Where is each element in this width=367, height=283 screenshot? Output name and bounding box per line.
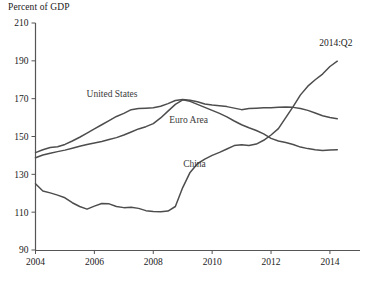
x-tick-label: 2008	[144, 257, 163, 267]
y-tick-label: 130	[14, 170, 29, 180]
y-tick-label: 110	[15, 208, 29, 218]
y-tick-label: 190	[14, 56, 29, 66]
y-tick-label: 210	[14, 18, 29, 28]
x-tick-label: 2010	[203, 257, 222, 267]
y-tick-label: 90	[19, 245, 29, 255]
chart-plot-area: 90110130150170190210 2004200620082010201…	[0, 0, 367, 283]
series-label-united-states: United States	[87, 89, 138, 99]
series-label-euro-area: Euro Area	[169, 115, 209, 125]
x-tick-label: 2014	[320, 257, 339, 267]
series-label-china: China	[183, 159, 206, 169]
y-tick-group: 90110130150170190210	[14, 18, 35, 255]
annotation-group: 2014:Q2	[319, 38, 353, 48]
gdp-debt-chart: Percent of GDP 90110130150170190210 2004…	[0, 0, 367, 283]
x-tick-label: 2012	[262, 257, 281, 267]
x-axis-group: 200420062008201020122014	[26, 250, 360, 267]
y-tick-label: 150	[14, 132, 29, 142]
y-axis-group: 90110130150170190210	[14, 18, 35, 255]
x-tick-group: 200420062008201020122014	[26, 250, 340, 267]
y-tick-label: 170	[14, 94, 29, 104]
chart-annotation: 2014:Q2	[319, 38, 353, 48]
series-path-group	[36, 61, 338, 212]
x-tick-label: 2004	[26, 257, 45, 267]
x-tick-label: 2006	[85, 257, 104, 267]
